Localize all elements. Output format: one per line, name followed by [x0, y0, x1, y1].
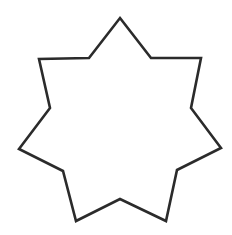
star-figure: [0, 0, 232, 235]
seven-pointed-star-outline: [19, 18, 221, 221]
diagram-canvas: [0, 0, 232, 235]
